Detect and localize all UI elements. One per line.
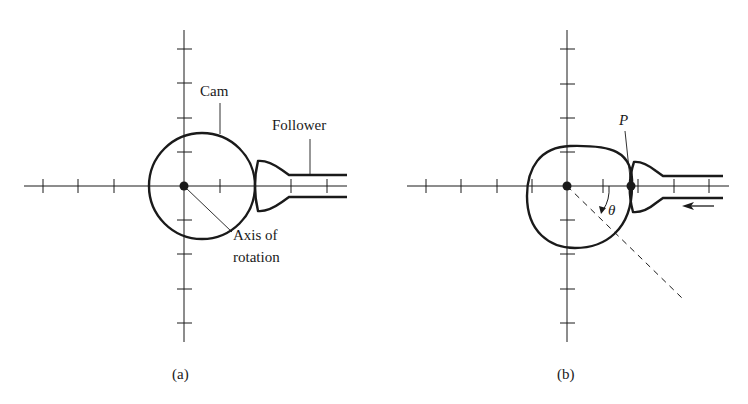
cam-label: Cam [200, 83, 228, 99]
panel-b-radius-dashed [567, 186, 682, 298]
panel-b-rotation-axis-dot [563, 182, 572, 191]
theta-label: θ [608, 202, 615, 218]
panel-b-contact-point [627, 182, 636, 191]
panel-b-caption: (b) [557, 366, 575, 382]
follower-label: Follower [272, 117, 326, 133]
panel-b-p-leader [625, 131, 630, 178]
panel-b-cam [527, 146, 632, 248]
point-p-label: P [619, 112, 628, 128]
cam-follower-diagram [0, 0, 748, 404]
panel-a-caption: (a) [172, 366, 189, 382]
axis-of-rotation-label-line1: Axis of [233, 227, 278, 243]
axis-of-rotation-label-line2: rotation [233, 249, 280, 265]
panel-a-axis-leader [186, 188, 232, 232]
